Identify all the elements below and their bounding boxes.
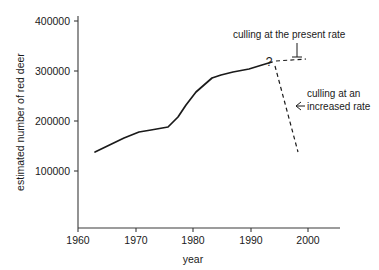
y-tick-label-100000: 100000 [35, 165, 70, 177]
x-tick-labels: 1960 1970 1980 1990 2000 [66, 234, 320, 246]
x-tick-label-1980: 1980 [181, 234, 205, 246]
x-tick-label-1990: 1990 [239, 234, 263, 246]
annotation-increased-rate-leader [296, 102, 305, 110]
y-tick-label-300000: 300000 [35, 65, 70, 77]
chart-page: 400000 300000 200000 100000 1960 1970 19… [0, 0, 379, 270]
annotation-increased-rate-line1: culling at an [307, 88, 360, 99]
annotation-increased-rate-line2: increased rate [307, 101, 371, 112]
x-tick-label-1960: 1960 [66, 234, 90, 246]
annotation-present-rate-leader [292, 43, 302, 57]
leader-arrow-upper [296, 102, 301, 106]
axes-group [78, 16, 340, 228]
x-axis-title: year [183, 253, 204, 265]
x-tick-marks [78, 228, 308, 232]
y-axis-title: estimated number of red deer [14, 53, 26, 191]
uncertainty-question-mark: ? [266, 55, 273, 69]
leader-arrow-lower [296, 106, 301, 110]
data-curve-red-deer [95, 62, 272, 152]
annotation-present-rate-label: culling at the present rate [233, 29, 346, 40]
projection-increased-rate [275, 66, 298, 152]
y-tick-label-400000: 400000 [35, 15, 70, 27]
y-tick-marks [74, 21, 78, 171]
y-tick-label-200000: 200000 [35, 115, 70, 127]
x-tick-label-1970: 1970 [124, 234, 148, 246]
y-tick-labels: 400000 300000 200000 100000 [35, 15, 70, 177]
x-tick-label-2000: 2000 [296, 234, 320, 246]
projection-present-rate [276, 59, 306, 61]
red-deer-population-chart: 400000 300000 200000 100000 1960 1970 19… [0, 0, 379, 270]
